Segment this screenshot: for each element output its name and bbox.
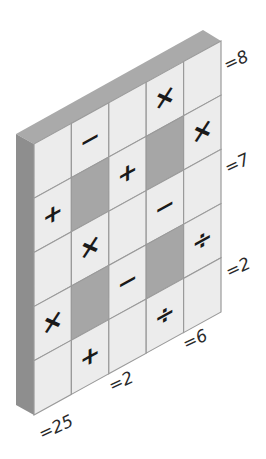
puzzle-board: −×++××−×−÷+÷ =8=7=2=25=2=6 — [0, 0, 266, 459]
row-result-5: =2 — [222, 253, 253, 282]
row-result-3: =7 — [221, 149, 252, 178]
board-left-edge — [16, 134, 34, 415]
col-result-1: =25 — [35, 410, 76, 443]
puzzle-grid: −×++××−×−÷+÷ — [34, 41, 221, 415]
row-result-1: =8 — [220, 46, 251, 75]
